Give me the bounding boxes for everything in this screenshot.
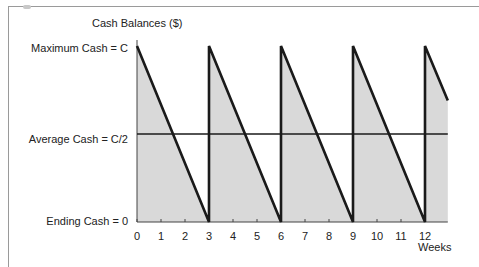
x-tick-label: 2 [175, 230, 195, 242]
x-tick-label: 1 [151, 230, 171, 242]
x-tick-label: 4 [223, 230, 243, 242]
x-tick-label: 10 [367, 230, 387, 242]
x-tick-label: 8 [319, 230, 339, 242]
x-tick-label: 9 [343, 230, 363, 242]
x-tick-label: 11 [391, 230, 411, 242]
x-tick-label: 0 [127, 230, 147, 242]
x-tick-label: 3 [199, 230, 219, 242]
x-tick-label: 7 [295, 230, 315, 242]
x-axis-label: Weeks [418, 241, 451, 253]
x-tick-label: 6 [271, 230, 291, 242]
x-tick-label: 5 [247, 230, 267, 242]
